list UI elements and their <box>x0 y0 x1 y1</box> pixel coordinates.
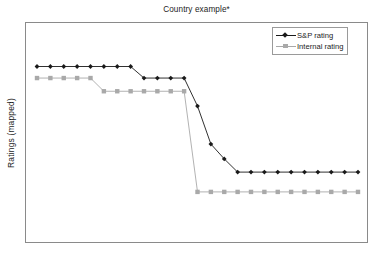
data-point-marker <box>75 76 79 80</box>
data-point-marker <box>88 76 92 80</box>
data-point-marker <box>115 89 119 93</box>
data-point-marker <box>209 190 213 194</box>
data-point-marker <box>168 76 173 81</box>
data-point-marker <box>75 64 80 69</box>
data-point-marker <box>155 76 160 81</box>
data-point-marker <box>48 76 52 80</box>
data-point-marker <box>35 64 40 69</box>
data-point-marker <box>48 64 53 69</box>
data-point-marker <box>128 89 132 93</box>
legend-item-internal-rating: Internal rating <box>276 41 343 52</box>
data-point-marker <box>102 89 106 93</box>
data-point-marker <box>356 170 361 175</box>
data-point-marker <box>342 190 346 194</box>
data-point-marker <box>275 170 280 175</box>
data-point-marker <box>155 89 159 93</box>
data-point-marker <box>289 190 293 194</box>
data-point-marker <box>195 104 200 109</box>
data-point-marker <box>356 190 360 194</box>
data-point-marker <box>169 89 173 93</box>
series-line <box>37 67 358 173</box>
data-point-marker <box>316 190 320 194</box>
data-point-marker <box>342 170 347 175</box>
diamond-marker-icon <box>282 32 288 38</box>
data-point-marker <box>262 190 266 194</box>
y-axis-label: Ratings (mapped) <box>6 98 16 168</box>
data-point-marker <box>315 170 320 175</box>
data-point-marker <box>302 190 306 194</box>
chart-title: Country example* <box>25 4 368 15</box>
chart-legend: S&P rating Internal rating <box>272 27 348 55</box>
y-axis-label-container: Ratings (mapped) <box>0 22 22 243</box>
data-point-marker <box>182 89 186 93</box>
data-point-marker <box>62 76 66 80</box>
data-point-marker <box>88 64 93 69</box>
data-point-marker <box>289 170 294 175</box>
data-point-marker <box>115 64 120 69</box>
square-marker-icon <box>283 44 288 49</box>
data-point-marker <box>222 190 226 194</box>
legend-label-internal-rating: Internal rating <box>297 41 343 52</box>
data-point-marker <box>249 190 253 194</box>
legend-item-sp-rating: S&P rating <box>276 30 343 41</box>
series-sp-rating <box>35 64 361 174</box>
data-point-marker <box>101 64 106 69</box>
data-point-marker <box>182 76 187 81</box>
data-point-marker <box>142 89 146 93</box>
data-point-marker <box>329 170 334 175</box>
data-point-marker <box>195 190 199 194</box>
plot-canvas <box>25 22 368 243</box>
data-point-marker <box>249 170 254 175</box>
chart-figure: Country example* Ratings (mapped) S&P ra… <box>0 0 373 255</box>
data-point-marker <box>302 170 307 175</box>
series-internal-rating <box>35 76 360 194</box>
data-point-marker <box>262 170 267 175</box>
data-point-marker <box>329 190 333 194</box>
data-point-marker <box>276 190 280 194</box>
data-point-marker <box>35 76 39 80</box>
data-point-marker <box>61 64 66 69</box>
series-line <box>37 78 358 192</box>
data-point-marker <box>235 190 239 194</box>
legend-key-internal-rating <box>276 41 296 52</box>
legend-label-sp-rating: S&P rating <box>297 30 333 41</box>
legend-key-sp-rating <box>276 30 296 41</box>
